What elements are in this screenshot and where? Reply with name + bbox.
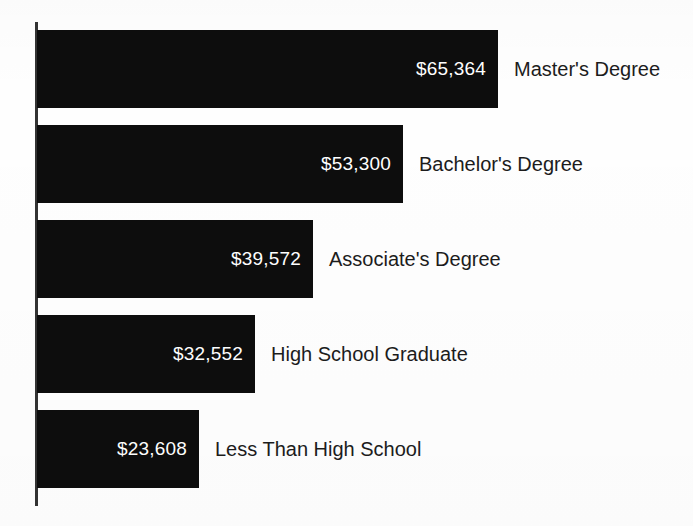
- bar-value-label: $23,608: [37, 410, 199, 488]
- bar-category-label: Master's Degree: [498, 30, 660, 108]
- bar-category-label: Bachelor's Degree: [403, 125, 583, 203]
- bar-chart: $65,364 Master's Degree $53,300 Bachelor…: [0, 0, 693, 526]
- plot-area: $65,364 Master's Degree $53,300 Bachelor…: [0, 0, 693, 526]
- bar-row[interactable]: $23,608 Less Than High School: [37, 410, 199, 488]
- bar-row[interactable]: $65,364 Master's Degree: [37, 30, 498, 108]
- bar-value-label: $53,300: [37, 125, 403, 203]
- bar-category-label: Associate's Degree: [313, 220, 501, 298]
- bar-row[interactable]: $32,552 High School Graduate: [37, 315, 255, 393]
- bar-value-label: $39,572: [37, 220, 313, 298]
- bar-value-label: $65,364: [37, 30, 498, 108]
- bar-category-label: High School Graduate: [255, 315, 468, 393]
- bar-row[interactable]: $53,300 Bachelor's Degree: [37, 125, 403, 203]
- bar-category-label: Less Than High School: [199, 410, 421, 488]
- bar-row[interactable]: $39,572 Associate's Degree: [37, 220, 313, 298]
- bar-value-label: $32,552: [37, 315, 255, 393]
